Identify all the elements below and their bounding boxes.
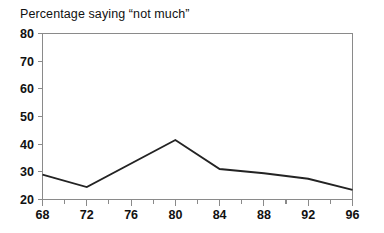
y-tick-label-20: 20 [20, 193, 34, 207]
x-tick-label-68: 68 [36, 208, 50, 222]
x-tick-label-80: 80 [168, 208, 182, 222]
x-tick-label-96: 96 [346, 208, 360, 222]
y-tick-label-40: 40 [20, 138, 34, 152]
y-tick-label-50: 50 [20, 110, 34, 124]
x-axis-tick-labels: 68 72 76 80 84 88 92 96 [36, 208, 360, 222]
x-tick-label-72: 72 [80, 208, 94, 222]
chart-figure: Percentage saying “not much” 80 70 60 50… [0, 0, 384, 233]
data-series-line [43, 140, 353, 190]
x-tick-label-76: 76 [124, 208, 138, 222]
y-tick-label-70: 70 [20, 55, 34, 69]
y-axis-tick-labels: 80 70 60 50 40 30 20 [20, 27, 34, 207]
x-tick-label-92: 92 [301, 208, 315, 222]
line-chart-plot: 80 70 60 50 40 30 20 [0, 0, 384, 233]
y-tick-label-80: 80 [20, 27, 34, 41]
x-tick-label-84: 84 [213, 208, 227, 222]
y-tick-label-30: 30 [20, 165, 34, 179]
y-tick-label-60: 60 [20, 82, 34, 96]
x-tick-label-88: 88 [257, 208, 271, 222]
plot-frame [43, 34, 353, 200]
y-axis-ticks [38, 34, 43, 200]
x-axis-minor-ticks [65, 200, 331, 205]
